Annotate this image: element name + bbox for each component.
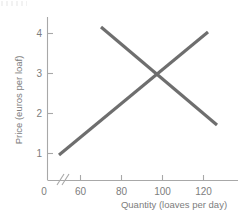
y-tick-label-2: 2 [36,108,42,119]
y-tick-label-1: 1 [36,148,42,159]
x-tick-label-120: 120 [195,186,212,197]
supply-demand-chart: 4 3 2 1 0 60 80 100 120 Price (euros per… [0,0,247,215]
axis-break-icon [57,174,69,185]
x-tick-label-60: 60 [75,186,87,197]
y-tick-labels: 4 3 2 1 [36,28,42,159]
y-tick-marks [48,34,54,154]
x-axis-title: Quantity (loaves per day) [121,199,227,210]
x-tick-labels: 60 80 100 120 [75,186,212,197]
origin-label: 0 [41,186,47,197]
chart-canvas: 4 3 2 1 0 60 80 100 120 Price (euros per… [0,0,247,215]
x-tick-label-80: 80 [116,186,128,197]
y-tick-label-4: 4 [36,28,42,39]
y-tick-label-3: 3 [36,68,42,79]
x-tick-marks [81,175,204,181]
x-tick-label-100: 100 [154,186,171,197]
supply-curve [59,32,208,155]
demand-curve [101,27,217,125]
y-axis-title: Price (euros per loaf) [13,56,24,145]
